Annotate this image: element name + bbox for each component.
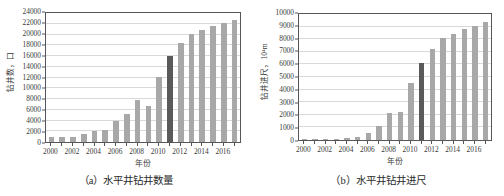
bar [334,139,340,140]
x-tick-mark [104,143,105,146]
y-tick-label: 12000 [23,74,41,82]
bar [199,30,205,142]
x-tick-mark [180,143,181,146]
y-tick-label: 4000 [279,86,294,94]
bar [189,34,195,142]
x-tick-mark [463,141,464,144]
x-tick-mark [335,141,336,144]
bar [232,20,238,142]
y-tick-label: 1000 [279,124,294,132]
y-tick-label: 2000 [26,128,41,136]
bar [398,112,404,140]
bar [156,77,162,142]
x-tick-mark [378,141,379,144]
x-tick-mark [158,143,159,146]
bar [70,137,76,142]
x-tick-mark [325,141,326,144]
figure-container: 钻井数，口 0200040006000800010000120001400016… [0,0,504,196]
x-tick-mark [346,141,347,144]
plot-area-a [45,12,241,143]
x-tick-mark [421,141,422,144]
x-axis-title-a: 年份 [45,157,241,168]
x-tick-mark [389,141,390,144]
bar [312,139,318,140]
x-tick-mark [201,143,202,146]
x-tick-mark [410,141,411,144]
x-tick-mark [367,141,368,144]
bar [344,138,350,140]
panel-caption-b: （b）水平井钻井进尺 [252,174,504,187]
plot-area-b [298,13,492,141]
y-tick-label: 2000 [279,111,294,119]
bar [210,26,216,142]
x-tick-mark [115,143,116,146]
chart-panel-b: 钻井进尺，10⁴m 010002000300040005000600070008… [252,0,504,196]
bar [81,134,87,142]
x-axis-ticks-b: 200020022004200620082010201220142016 [298,141,492,155]
x-tick-label: 2016 [210,147,236,156]
y-tick-label: 8000 [26,95,41,103]
bar [302,139,308,140]
x-tick-mark [169,143,170,146]
x-axis-ticks-a: 200020022004200620082010201220142016 [45,143,241,157]
bar [355,137,361,140]
x-tick-mark [126,143,127,146]
bar [472,26,478,140]
bar [376,126,382,140]
x-tick-mark [357,141,358,144]
y-tick-label: 5000 [279,73,294,81]
y-tick-label: 8000 [279,35,294,43]
bar [451,34,457,140]
bar [483,22,489,140]
x-tick-mark [431,141,432,144]
x-tick-mark [61,143,62,146]
y-tick-label: 0 [290,137,294,145]
x-tick-mark [314,141,315,144]
y-tick-label: 10000 [276,9,294,17]
y-tick-label: 14000 [23,63,41,71]
x-tick-mark [474,141,475,144]
bar [167,56,173,142]
bar-series-a [46,13,240,142]
x-tick-mark [212,143,213,146]
y-tick-label: 4000 [26,117,41,125]
x-tick-mark [399,141,400,144]
y-tick-label: 22000 [23,19,41,27]
y-tick-label: 10000 [23,84,41,92]
x-tick-mark [50,143,51,146]
bar [440,38,446,140]
x-tick-mark [442,141,443,144]
bar [387,113,393,140]
x-tick-mark [137,143,138,146]
bar [430,49,436,140]
bar [178,43,184,142]
x-tick-mark [83,143,84,146]
x-tick-label: 2016 [461,145,487,154]
y-axis-ticks-b: 0100020003000400050006000700080009000100… [252,13,298,141]
x-axis-title-b: 年份 [298,155,492,166]
x-tick-mark [191,143,192,146]
x-tick-mark [94,143,95,146]
y-tick-label: 24000 [23,8,41,16]
bar [102,130,108,142]
bar [92,131,98,142]
bar [124,114,130,142]
y-tick-label: 9000 [279,22,294,30]
bar [113,121,119,142]
bar [49,137,55,142]
x-tick-mark [234,143,235,146]
bar-series-b [299,14,491,140]
x-tick-mark [303,141,304,144]
bar [408,83,414,140]
panel-caption-a: （a）水平井钻井数量 [0,174,252,187]
x-tick-mark [223,143,224,146]
chart-panel-a: 钻井数，口 0200040006000800010000120001400016… [0,0,252,196]
bar [135,100,141,142]
y-axis-ticks-a: 0200040006000800010000120001400016000180… [0,12,45,143]
y-tick-label: 16000 [23,52,41,60]
x-tick-mark [72,143,73,146]
bar [419,63,425,140]
y-tick-label: 7000 [279,47,294,55]
bar [59,137,65,142]
y-tick-label: 3000 [279,99,294,107]
